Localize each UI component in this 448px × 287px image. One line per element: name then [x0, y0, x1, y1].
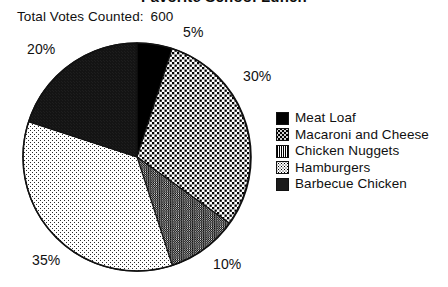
solid-black-swatch-icon [276, 112, 289, 125]
chart-legend: Meat Loaf Macaroni and Cheese Chicken Nu… [276, 110, 429, 193]
legend-label-chicken-nuggets: Chicken Nuggets [295, 144, 399, 158]
slice-label-macaroni: 30% [243, 68, 271, 84]
legend-label-meat-loaf: Meat Loaf [295, 111, 356, 125]
legend-label-barbecue-chicken: Barbecue Chicken [295, 177, 407, 191]
total-votes-value: 600 [151, 9, 174, 24]
legend-item-hamburgers: Hamburgers [276, 160, 429, 177]
total-votes-label: Total Votes Counted: [17, 9, 144, 24]
slice-label-hamburgers: 35% [32, 252, 60, 268]
slice-label-barbecue-chicken: 20% [27, 41, 55, 57]
vertical-line-swatch-icon [276, 145, 289, 158]
total-votes-caption: Total Votes Counted:600 [17, 9, 173, 24]
pie-chart-svg [22, 42, 252, 272]
chart-screenshot: Favorite School Lunch Total Votes Counte… [0, 0, 448, 287]
legend-label-hamburgers: Hamburgers [295, 161, 370, 175]
pie-chart [22, 42, 252, 272]
fine-dot-swatch-icon [276, 161, 289, 174]
legend-label-macaroni-and-cheese: Macaroni and Cheese [295, 128, 429, 142]
slice-label-chicken-nuggets: 10% [213, 256, 241, 272]
chart-title: Favorite School Lunch [0, 0, 448, 5]
dark-solid-swatch-icon [276, 178, 289, 191]
legend-item-barbecue-chicken: Barbecue Chicken [276, 176, 429, 193]
legend-item-macaroni-and-cheese: Macaroni and Cheese [276, 127, 429, 144]
legend-item-chicken-nuggets: Chicken Nuggets [276, 143, 429, 160]
slice-label-meat-loaf: 5% [183, 24, 203, 40]
coarse-dot-swatch-icon [276, 128, 289, 141]
legend-item-meat-loaf: Meat Loaf [276, 110, 429, 127]
